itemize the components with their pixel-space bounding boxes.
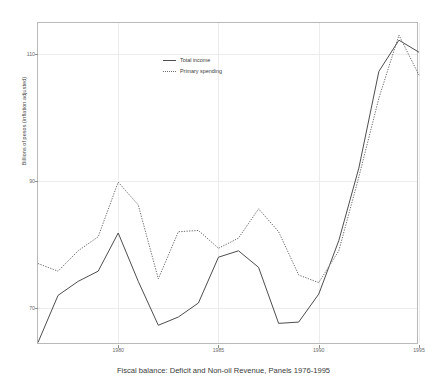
x-tick-mark (319, 345, 320, 348)
x-tick-mark (218, 345, 219, 348)
legend-label-primary-spending: Primary spending (180, 67, 222, 76)
legend-swatch-solid-icon (163, 60, 176, 61)
series-line-total-income (38, 40, 419, 342)
legend-item-total-income: Total income (163, 56, 283, 65)
y-axis-title: Billions of pesos (inflation adjusted) (21, 41, 27, 201)
legend-label-total-income: Total income (180, 56, 210, 65)
legend-swatch-dotted-icon (163, 71, 176, 72)
x-tick-mark (419, 345, 420, 348)
legend-item-primary-spending: Primary spending (163, 67, 283, 76)
y-tick-label: 110 (27, 51, 35, 57)
grid-line-vertical (419, 23, 420, 343)
figure-caption: Fiscal balance: Deficit and Non-oil Reve… (0, 366, 447, 375)
x-tick-mark (118, 345, 119, 348)
chart-figure: Billions of pesos (inflation adjusted) 7… (0, 0, 447, 381)
chart-legend: Total income Primary spending (163, 56, 283, 78)
